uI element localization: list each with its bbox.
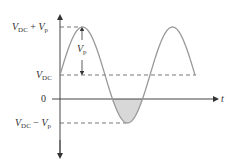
label-vdc-plus-vp: VDC + Vp	[12, 22, 48, 34]
label-vdc: VDC	[36, 70, 52, 82]
label-time-t: t	[221, 94, 224, 104]
label-vp: Vp	[77, 44, 87, 56]
label-zero: 0	[41, 94, 46, 104]
label-vdc-minus-vp: VDC − Vp	[15, 118, 51, 130]
